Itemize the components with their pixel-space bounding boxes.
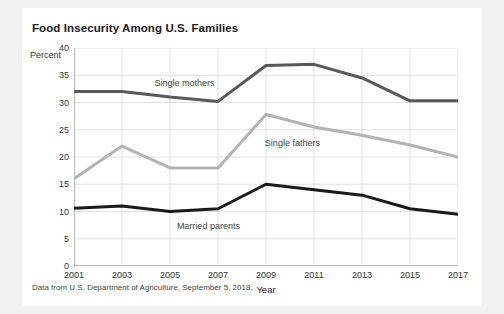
y-tick-label: 20 (59, 152, 69, 162)
y-tick-label: 25 (59, 125, 69, 135)
source-note: Data from U.S. Department of Agriculture… (32, 283, 253, 292)
plot-wrapper: 0510152025303540200120032005200720092011… (74, 48, 458, 266)
x-tick-label: 2001 (64, 270, 84, 280)
x-axis-title: Year (256, 284, 275, 295)
series-label-0: Single mothers (154, 78, 214, 88)
chart-title: Food Insecurity Among U.S. Families (32, 22, 238, 34)
y-tick-label: 5 (64, 234, 69, 244)
y-tick-label: 35 (59, 70, 69, 80)
y-tick-label: 40 (59, 43, 69, 53)
y-axis-title: Percent (30, 50, 61, 60)
figure-card: Food Insecurity Among U.S. Families Perc… (22, 8, 482, 306)
series-label-2: Married parents (177, 221, 240, 231)
y-tick-label: 30 (59, 98, 69, 108)
y-tick-label: 10 (59, 207, 69, 217)
x-tick-label: 2015 (400, 270, 420, 280)
series-label-1: Single fathers (265, 138, 320, 148)
x-tick-label: 2003 (112, 270, 132, 280)
x-tick-label: 2013 (352, 270, 372, 280)
x-tick-label: 2007 (208, 270, 228, 280)
y-tick-label: 15 (59, 179, 69, 189)
x-tick-label: 2009 (256, 270, 276, 280)
x-tick-label: 2017 (448, 270, 468, 280)
line-chart-plot (74, 48, 458, 266)
x-tick-label: 2005 (160, 270, 180, 280)
x-tick-label: 2011 (304, 270, 323, 280)
